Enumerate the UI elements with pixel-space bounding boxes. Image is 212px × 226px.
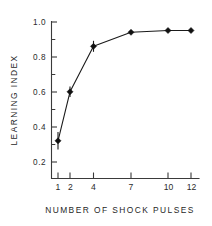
y-tick-label-1-0: 1.0 bbox=[33, 18, 46, 27]
x-axis-major-ticks bbox=[58, 173, 191, 179]
data-point-6 bbox=[188, 28, 194, 34]
x-tick-label-1: 1 bbox=[56, 182, 61, 192]
y-tick-label-0-4: 0.4 bbox=[33, 123, 46, 132]
x-tick-label-7: 7 bbox=[129, 182, 134, 192]
x-tick-label-2: 2 bbox=[68, 182, 73, 192]
data-point-2 bbox=[67, 89, 73, 95]
data-point-3 bbox=[91, 43, 97, 49]
y-tick-label-0-6: 0.6 bbox=[33, 88, 46, 97]
x-tick-label-4: 4 bbox=[91, 182, 96, 192]
x-tick-label-12: 12 bbox=[187, 182, 197, 192]
chart-figure: 1.0 0.8 0.6 0.4 0.2 1 2 4 7 10 12 LEAR bbox=[0, 0, 212, 226]
data-point-1 bbox=[55, 138, 61, 144]
y-tick-label-0-8: 0.8 bbox=[33, 53, 46, 62]
data-point-markers bbox=[55, 28, 194, 144]
line-chart-plot: 1.0 0.8 0.6 0.4 0.2 1 2 4 7 10 12 LEAR bbox=[0, 0, 212, 226]
x-axis-title: NUMBER OF SHOCK PULSES bbox=[45, 205, 195, 215]
y-axis-title: LEARNING INDEX bbox=[9, 54, 19, 145]
axis-lines bbox=[52, 22, 200, 179]
y-tick-label-0-2: 0.2 bbox=[33, 158, 46, 167]
data-point-5 bbox=[165, 28, 171, 34]
data-point-4 bbox=[128, 29, 134, 35]
x-tick-label-10: 10 bbox=[164, 182, 174, 192]
data-series-line bbox=[58, 31, 191, 141]
